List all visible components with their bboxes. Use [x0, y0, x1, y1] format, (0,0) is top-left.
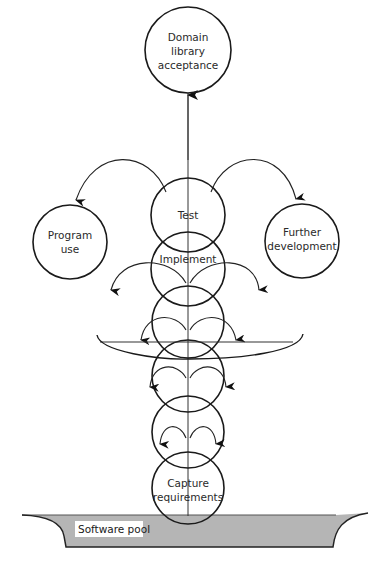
fountain-arc [190, 427, 216, 444]
node-label: Test [177, 209, 199, 221]
fountain-arc [160, 427, 186, 444]
fountain-arc [190, 318, 236, 340]
node-label: acceptance [158, 59, 219, 71]
arc-to-further-development [211, 159, 296, 199]
node-label: requirements [153, 491, 223, 503]
fountain-arc [190, 367, 226, 387]
node-label: Implement [160, 253, 217, 265]
node-label: Domain [168, 31, 209, 43]
node-label: development [267, 240, 336, 252]
fountain-arc [141, 318, 186, 340]
node-further-development: Further development [265, 204, 339, 278]
node-label: Program [48, 229, 92, 241]
fountain-arc [111, 263, 186, 290]
software-pool [22, 513, 368, 547]
software-pool-shape [22, 513, 368, 547]
arc-to-program-use [76, 160, 166, 200]
fountain-arc [150, 367, 186, 387]
node-label: use [61, 243, 80, 255]
fountain-model-diagram: Domain library acceptance Program use Fu… [0, 0, 378, 569]
node-label: library [171, 45, 205, 57]
node-label: Capture [167, 477, 209, 489]
software-pool-label: Software pool [78, 523, 150, 535]
node-domain-library-acceptance: Domain library acceptance [145, 7, 231, 93]
node-label: Further [283, 226, 322, 238]
node-program-use: Program use [33, 205, 107, 279]
